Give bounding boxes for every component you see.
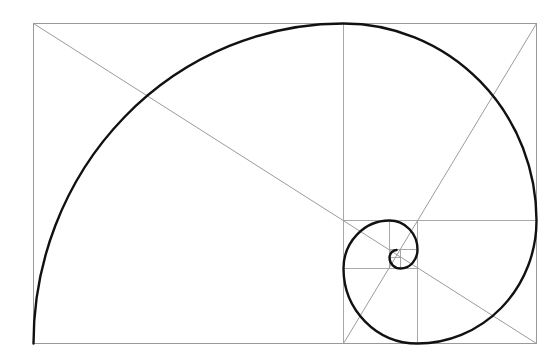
main-diagonal: [34, 24, 537, 344]
diagonal-lines: [34, 24, 537, 344]
secondary-diagonal: [344, 24, 537, 344]
golden-spiral-diagram: [0, 0, 559, 361]
